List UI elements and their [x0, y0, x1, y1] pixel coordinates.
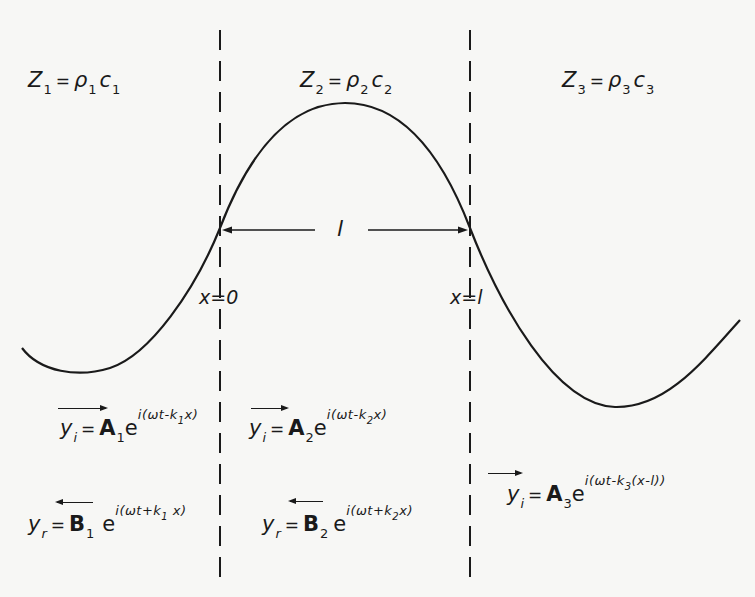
length-label: l [337, 218, 343, 240]
wave-eq-incident-1: yi=A1ei(ωt-k1x) [60, 418, 198, 439]
wave-eq-reflected-2: yr=B2ei(ωt+k2x) [262, 514, 413, 535]
direction-arrow-right-icon [488, 473, 521, 474]
impedance-label-1: Z1=ρ1c1 [28, 70, 120, 91]
impedance-label-3: Z3=ρ3c3 [562, 70, 654, 91]
boundary-label-x0: x=0 [199, 288, 238, 307]
boundary-label-xl: x=l [450, 288, 482, 307]
wave-eq-transmitted-3: yi=A3ei(ωt-k3(x-l)) [507, 484, 666, 505]
arrowhead-right-icon [458, 227, 468, 234]
wave-curve [22, 103, 740, 407]
wave-eq-reflected-1: yr=B1ei(ωt+k1 x) [28, 514, 187, 535]
arrowhead-left-icon [222, 227, 232, 234]
wave-eq-incident-2: yi=A2ei(ωt-k2x) [249, 418, 387, 439]
direction-arrow-left-icon [57, 502, 93, 503]
impedance-symbol: Z [28, 68, 42, 92]
direction-arrow-right-icon [251, 408, 287, 409]
direction-arrow-right-icon [58, 408, 106, 409]
impedance-label-2: Z2=ρ2c2 [300, 70, 392, 91]
direction-arrow-left-icon [290, 501, 323, 502]
